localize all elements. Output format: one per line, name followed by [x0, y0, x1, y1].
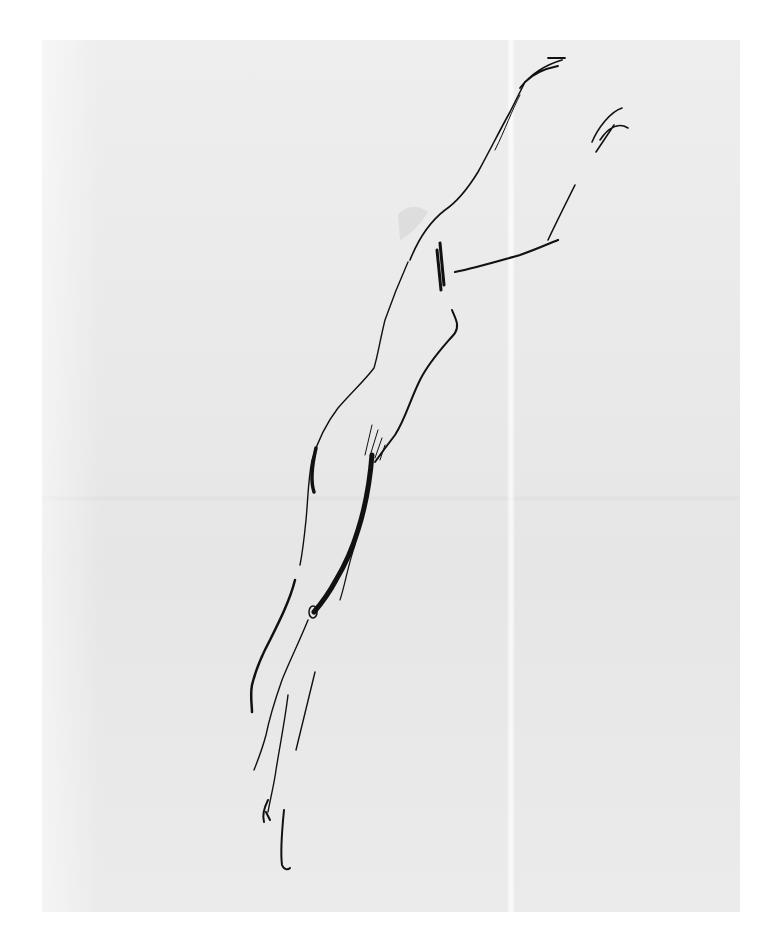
- back-leg-contour: [251, 580, 295, 712]
- torso-back-contour: [300, 262, 408, 565]
- hand-lower: [592, 108, 628, 152]
- hand-upper: [520, 58, 565, 88]
- shin-contour: [296, 672, 315, 750]
- forearm-lower: [548, 185, 575, 240]
- figure-sketch: [0, 0, 771, 937]
- arm-lower-outline: [455, 240, 558, 272]
- foot-right: [281, 810, 290, 869]
- shoulder-hatching: [437, 243, 444, 290]
- arm-upper-outline: [410, 82, 525, 260]
- torso-hatching: [365, 425, 385, 460]
- back-leg-inner: [254, 620, 308, 770]
- torso-front-contour: [375, 310, 457, 462]
- arm-upper-inner: [495, 95, 520, 150]
- hip-accent: [312, 448, 316, 492]
